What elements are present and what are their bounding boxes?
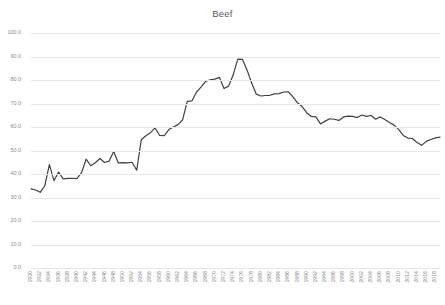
gridline xyxy=(31,221,440,222)
gridline xyxy=(31,104,440,105)
x-axis-tick-label: 1932 xyxy=(37,271,42,283)
y-axis-tick-label: 50.0 xyxy=(0,148,21,153)
x-axis-tick-label: 1978 xyxy=(249,271,254,283)
x-axis-tick-label: 1956 xyxy=(147,271,152,283)
x-axis-tick-label: 1940 xyxy=(74,271,79,283)
y-axis-tick-label: 30.0 xyxy=(0,195,21,200)
y-axis-tick-label: 20.0 xyxy=(0,218,21,223)
x-axis-tick-label: 1976 xyxy=(239,271,244,283)
x-axis-tick-label: 1992 xyxy=(313,271,318,283)
x-axis-tick-label: 1954 xyxy=(138,271,143,283)
x-axis-tick-label: 1970 xyxy=(212,271,217,283)
x-axis: 1930193219341936193819401942194419461948… xyxy=(31,271,440,305)
x-axis-tick-label: 2000 xyxy=(350,271,355,283)
gridline xyxy=(31,198,440,199)
x-axis-tick-label: 2012 xyxy=(405,271,410,283)
x-axis-tick-label: 2018 xyxy=(432,271,437,283)
x-axis-tick-label: 1942 xyxy=(83,271,88,283)
x-axis-tick-label: 1990 xyxy=(304,271,309,283)
gridline xyxy=(31,151,440,152)
x-axis-tick-label: 1958 xyxy=(157,271,162,283)
chart-title: Beef xyxy=(0,8,445,19)
x-axis-tick-label: 1938 xyxy=(65,271,70,283)
x-axis-tick-label: 2014 xyxy=(414,271,419,283)
beef-consumption-chart: Beef 100.090.080.070.060.050.040.030.020… xyxy=(0,0,445,305)
x-axis-tick-label: 1988 xyxy=(295,271,300,283)
x-axis-tick-label: 1930 xyxy=(28,271,33,283)
x-axis-tick-label: 1964 xyxy=(184,271,189,283)
y-axis-tick-label: 70.0 xyxy=(0,101,21,106)
x-axis-tick-label: 1980 xyxy=(258,271,263,283)
y-axis-tick-label: 90.0 xyxy=(0,54,21,59)
x-axis-tick-label: 2016 xyxy=(423,271,428,283)
x-axis-tick-label: 1998 xyxy=(340,271,345,283)
x-axis-tick-label: 2002 xyxy=(359,271,364,283)
x-axis-tick-label: 1936 xyxy=(56,271,61,283)
x-axis-tick-label: 1962 xyxy=(175,271,180,283)
x-axis-tick-label: 1982 xyxy=(267,271,272,283)
x-axis-tick-label: 1934 xyxy=(46,271,51,283)
x-axis-tick-label: 1986 xyxy=(285,271,290,283)
y-axis-tick-label: 10.0 xyxy=(0,242,21,247)
x-axis-tick-label: 2006 xyxy=(377,271,382,283)
x-axis-tick-label: 2010 xyxy=(396,271,401,283)
x-axis-tick-label: 1946 xyxy=(102,271,107,283)
y-axis-tick-label: 40.0 xyxy=(0,171,21,176)
x-axis-tick-label: 1996 xyxy=(331,271,336,283)
y-axis-tick-label: 80.0 xyxy=(0,77,21,82)
gridline xyxy=(31,33,440,34)
y-axis-tick-label: 60.0 xyxy=(0,124,21,129)
gridline xyxy=(31,80,440,81)
x-axis-tick-label: 1944 xyxy=(92,271,97,283)
gridline xyxy=(31,174,440,175)
x-axis-tick-label: 1948 xyxy=(111,271,116,283)
x-axis-tick-label: 2004 xyxy=(368,271,373,283)
x-axis-tick-label: 1994 xyxy=(322,271,327,283)
y-axis-tick-label: 0.0 xyxy=(0,265,21,270)
x-axis-tick-label: 1972 xyxy=(221,271,226,283)
x-axis-tick-label: 1974 xyxy=(230,271,235,283)
x-axis-tick-label: 1952 xyxy=(129,271,134,283)
y-axis-tick-label: 100.0 xyxy=(0,30,21,35)
gridline xyxy=(31,245,440,246)
x-axis-tick-label: 1960 xyxy=(166,271,171,283)
gridline xyxy=(31,57,440,58)
gridline xyxy=(31,268,440,269)
gridline xyxy=(31,127,440,128)
plot-area xyxy=(31,33,440,268)
x-axis-tick-label: 2008 xyxy=(386,271,391,283)
x-axis-tick-label: 1984 xyxy=(276,271,281,283)
x-axis-tick-label: 1966 xyxy=(193,271,198,283)
x-axis-tick-label: 1950 xyxy=(120,271,125,283)
x-axis-tick-label: 1968 xyxy=(203,271,208,283)
